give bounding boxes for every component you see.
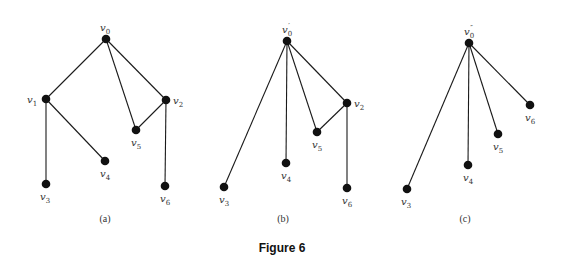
edge-v0-v5 xyxy=(106,39,136,130)
node-label-v3: v3 xyxy=(219,194,229,208)
node-label-v6: v6 xyxy=(342,195,353,209)
node-v5 xyxy=(494,130,503,139)
node-v6 xyxy=(343,184,352,193)
node-label-v4: v4 xyxy=(463,172,474,186)
node-v1 xyxy=(42,95,51,104)
graph-caption-a: (a) xyxy=(99,213,110,225)
node-v3 xyxy=(403,185,412,194)
figure-title: Figure 6 xyxy=(259,241,306,255)
graph-b: v0′v2v5v4v3v6(b) xyxy=(219,22,364,225)
node-label-v3: v3 xyxy=(40,191,50,205)
edge-v0p-v2 xyxy=(287,41,347,103)
node-label-v2: v2 xyxy=(354,98,364,112)
node-label-v5: v5 xyxy=(312,139,322,153)
node-label-v1: v1 xyxy=(27,94,37,108)
figure-canvas: v0v1v2v5v4v3v6(a)v0′v2v5v4v3v6(b)v0″v6v5… xyxy=(0,0,561,269)
node-label-v6: v6 xyxy=(525,112,536,126)
graphs-layer: v0v1v2v5v4v3v6(a)v0′v2v5v4v3v6(b)v0″v6v5… xyxy=(27,22,536,225)
node-v5 xyxy=(313,128,322,137)
edge-v0p-v3 xyxy=(224,41,287,187)
edge-v0pp-v6 xyxy=(469,43,530,105)
node-label-v2: v2 xyxy=(173,95,183,109)
edge-v0pp-v5 xyxy=(469,43,498,134)
edge-v1-v4 xyxy=(46,99,105,161)
node-label-v6: v6 xyxy=(160,193,171,207)
node-v4 xyxy=(464,161,473,170)
edge-v0-v1 xyxy=(46,39,106,99)
node-label-v0pp: v0″ xyxy=(464,24,474,40)
graph-a: v0v1v2v5v4v3v6(a) xyxy=(27,22,183,225)
edge-v2-v6 xyxy=(165,100,166,186)
edge-v0pp-v4 xyxy=(468,43,469,165)
node-label-v5: v5 xyxy=(493,141,503,155)
edge-v2-v5 xyxy=(317,103,347,132)
graph-c: v0″v6v5v4v3(c) xyxy=(401,24,536,225)
node-v4 xyxy=(282,159,291,168)
edge-v0p-v4 xyxy=(286,41,287,163)
node-label-v3: v3 xyxy=(401,196,411,210)
node-v6 xyxy=(161,182,170,191)
edge-v0-v2 xyxy=(106,39,166,100)
edge-v0p-v5 xyxy=(287,41,317,132)
graph-caption-c: (c) xyxy=(459,213,470,225)
node-label-v4: v4 xyxy=(100,168,111,182)
node-v6 xyxy=(526,101,535,110)
edge-v0pp-v3 xyxy=(407,43,469,189)
node-v3 xyxy=(220,183,229,192)
node-v4 xyxy=(101,157,110,166)
node-v5 xyxy=(132,126,141,135)
graph-caption-b: (b) xyxy=(277,213,289,225)
node-label-v0p: v0′ xyxy=(282,22,292,38)
node-label-v0: v0 xyxy=(100,22,110,36)
node-label-v5: v5 xyxy=(131,137,141,151)
node-v3 xyxy=(42,180,51,189)
node-v2 xyxy=(343,99,352,108)
node-label-v4: v4 xyxy=(281,170,292,184)
node-v2 xyxy=(162,96,171,105)
edge-v2-v5 xyxy=(136,100,166,130)
